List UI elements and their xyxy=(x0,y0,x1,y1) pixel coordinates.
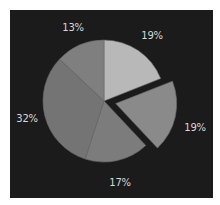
slice-label-5: 13% xyxy=(62,22,83,33)
slice-label-3: 17% xyxy=(109,177,130,188)
slice-label-2: 19% xyxy=(184,122,205,133)
pie-chart xyxy=(0,0,220,205)
slice-label-4: 32% xyxy=(16,113,37,124)
slice-label-1: 19% xyxy=(141,30,162,41)
